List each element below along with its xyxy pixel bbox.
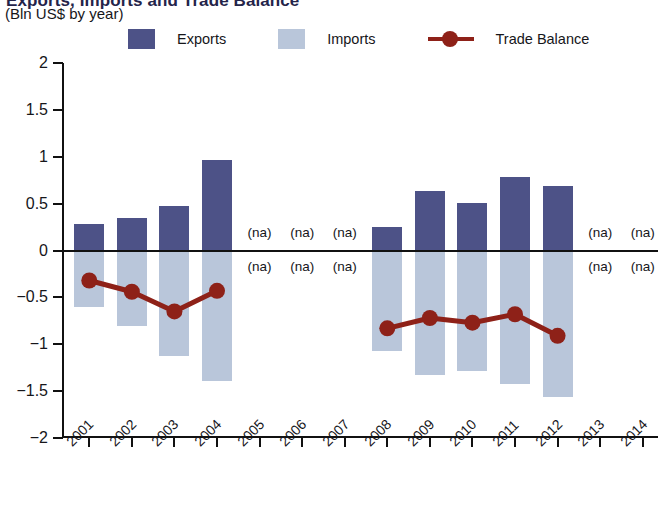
trade-balance-marker: [379, 320, 395, 336]
x-tick-mark: [173, 437, 175, 447]
trade-balance-marker: [209, 283, 225, 299]
plot-area: 21.510.50−0.5−1−1.5−2 200120022003200420…: [62, 63, 658, 438]
legend-item-imports[interactable]: Imports: [278, 29, 375, 49]
x-tick-mark: [344, 437, 346, 447]
trade-balance-marker: [507, 306, 523, 322]
chart-subtitle: (Bln US$ by year): [5, 5, 123, 22]
legend-swatch-icon: [278, 29, 305, 49]
y-tick-label: 2: [39, 54, 48, 72]
x-tick-mark: [301, 437, 303, 447]
x-tick-mark: [88, 437, 90, 447]
chart-root: Exports, Imports and Trade Balance (Bln …: [0, 0, 666, 505]
trade-balance-line-layer: [62, 63, 658, 438]
legend-label: Trade Balance: [496, 31, 590, 47]
y-tick-label: 1.5: [26, 101, 48, 119]
x-tick-mark: [259, 437, 261, 447]
x-tick-mark: [642, 437, 644, 447]
legend-swatch-icon: [128, 29, 155, 49]
trade-balance-line: [89, 281, 217, 312]
trade-balance-marker: [81, 273, 97, 289]
y-tick-label: 1: [39, 148, 48, 166]
x-tick-mark: [599, 437, 601, 447]
y-tick-label: 0.5: [26, 195, 48, 213]
y-tick-label: −1.5: [16, 382, 48, 400]
trade-balance-marker: [464, 315, 480, 331]
trade-balance-marker: [124, 284, 140, 300]
trade-balance-marker: [550, 328, 566, 344]
x-tick-mark: [514, 437, 516, 447]
x-tick-mark: [557, 437, 559, 447]
x-tick-mark: [471, 437, 473, 447]
legend-label: Imports: [327, 31, 375, 47]
trade-balance-marker: [422, 310, 438, 326]
x-tick-mark: [216, 437, 218, 447]
y-tick-label: −0.5: [16, 288, 48, 306]
x-tick-mark: [386, 437, 388, 447]
x-tick-mark: [429, 437, 431, 447]
legend-item-trade-balance[interactable]: Trade Balance: [428, 29, 590, 49]
x-tick-mark: [131, 437, 133, 447]
y-tick-label: 0: [39, 242, 48, 260]
y-tick-label: −2: [30, 429, 48, 447]
legend-label: Exports: [177, 31, 226, 47]
chart-legend: ExportsImportsTrade Balance: [128, 29, 589, 49]
y-tick-label: −1: [30, 335, 48, 353]
legend-line-marker-icon: [428, 29, 474, 49]
trade-balance-marker: [166, 303, 182, 319]
legend-item-exports[interactable]: Exports: [128, 29, 226, 49]
